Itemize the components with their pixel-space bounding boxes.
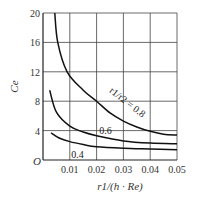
x-tick-label: 0.03: [115, 164, 133, 175]
curves: [50, 13, 177, 150]
origin-label: O: [33, 155, 41, 167]
y-tick-label: 16: [30, 37, 40, 48]
y-tick-label: 8: [35, 96, 40, 107]
curve-r1-r2-0-8: [55, 13, 177, 135]
x-tick-label: 0.02: [88, 164, 106, 175]
curve-0-6: [50, 90, 177, 144]
y-axis-label: Ce: [8, 80, 20, 92]
y-tick-label: 4: [35, 126, 40, 137]
chart: 0.010.020.030.040.0548121620Or1/(h · Re)…: [0, 0, 201, 199]
x-axis-label: r1/(h · Re): [97, 180, 143, 193]
x-tick-label: 0.01: [61, 164, 79, 175]
curve-label-0-4: 0.4: [71, 149, 84, 160]
y-tick-label: 20: [30, 8, 40, 19]
x-tick-label: 0.04: [141, 164, 159, 175]
curve-label-0-6: 0.6: [99, 125, 112, 136]
y-tick-label: 12: [30, 67, 40, 78]
x-tick-label: 0.05: [168, 164, 186, 175]
curve-label-0-8: r1/r2 = 0.8: [107, 85, 147, 120]
